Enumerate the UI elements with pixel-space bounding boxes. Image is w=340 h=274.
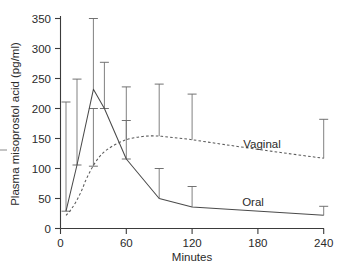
plot-area: 350 300 250 200 150 100 50 0 0 60 120 18… xyxy=(0,0,340,274)
y-axis-title: Plasma misoprostol acid (pg/ml) xyxy=(9,42,21,206)
x-axis-ticks xyxy=(61,229,324,235)
x-tick-label: 0 xyxy=(57,237,63,249)
x-tick-label: 180 xyxy=(248,237,267,249)
y-tick-label: 100 xyxy=(32,163,51,175)
x-tick-label: 60 xyxy=(120,237,133,249)
y-axis-ticks xyxy=(55,19,61,229)
x-tick-label: 240 xyxy=(314,237,333,249)
x-tick-label: 120 xyxy=(183,237,202,249)
x-axis-title: Minutes xyxy=(172,251,213,263)
y-tick-label: 200 xyxy=(32,103,51,115)
series-label-vaginal: Vaginal xyxy=(243,138,281,150)
series-line-oral xyxy=(66,89,324,215)
series-label-oral: Oral xyxy=(242,196,264,208)
y-tick-label: 0 xyxy=(45,223,51,235)
y-tick-label: 50 xyxy=(38,193,51,205)
y-tick-label: 300 xyxy=(32,43,51,55)
error-bars-oral xyxy=(62,19,329,216)
error-bars-vaginal xyxy=(89,84,328,166)
y-tick-label: 350 xyxy=(32,13,51,25)
y-tick-label: 250 xyxy=(32,73,51,85)
chart-figure: 350 300 250 200 150 100 50 0 0 60 120 18… xyxy=(0,0,340,274)
x-axis-tick-labels: 0 60 120 180 240 xyxy=(57,237,333,249)
series-line-vaginal xyxy=(66,136,324,215)
y-tick-label: 150 xyxy=(32,133,51,145)
y-axis-tick-labels: 350 300 250 200 150 100 50 0 xyxy=(32,13,51,235)
